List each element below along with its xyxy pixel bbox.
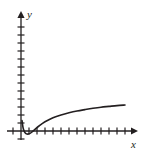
y-axis-group	[17, 11, 24, 140]
x-axis-label: x	[130, 138, 136, 150]
y-axis-arrowhead-icon	[17, 11, 24, 18]
x-axis-arrowhead-icon	[131, 127, 138, 134]
graph-figure: y x	[0, 0, 144, 155]
y-axis-label: y	[26, 8, 32, 20]
coordinate-plot: y x	[0, 0, 144, 155]
